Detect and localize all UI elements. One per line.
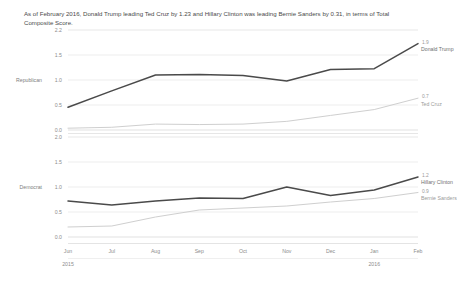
series-name-bernie-sanders: Bernie Sanders [421,195,457,201]
series-lines-republican [68,30,418,130]
chart-title: As of February 2016, Donald Trump leadin… [24,9,414,27]
x-tick-dec: Dec [326,248,335,254]
series-label-donald-trump: 1.9 Donald Trump [421,40,454,53]
series-line-bernie-sanders [68,193,418,228]
series-label-hillary-clinton: 1.2 Hillary Clinton [421,173,453,186]
x-tick-oct: Oct [239,248,247,254]
y-tick-label: 2.2 [55,27,62,33]
y-tick-label: 0.0 [55,127,62,133]
x-axis-rule [68,243,418,244]
x-year-2015: 2015 [62,261,74,267]
x-tick-jan: Jan [370,248,378,254]
y-tick-label: 0.0 [55,234,62,240]
series-name-hillary-clinton: Hillary Clinton [421,179,453,185]
y-tick-label: 0.5 [55,102,62,108]
panel-republican: 2.2 1.5 1.0 0.5 0.0 Republican [0,30,437,132]
panel-democrat: 2.0 1.5 1.0 0.5 0.0 Democrat [0,137,437,239]
plot-area-republican: 2.2 1.5 1.0 0.5 0.0 Republican [68,30,418,130]
y-tick-label: 1.5 [55,159,62,165]
plot-area-democrat: 2.0 1.5 1.0 0.5 0.0 Democrat [68,137,418,237]
x-tick-sep: Sep [195,248,204,254]
x-tick-feb: Feb [414,248,423,254]
y-tick-label: 0.5 [55,209,62,215]
x-axis: Jun Jul Aug Sep Oct Nov Dec Jan Feb 2015… [68,243,418,273]
x-tick-jul: Jul [108,248,115,254]
axis-label-republican: Republican [16,77,42,83]
series-lines-democrat [68,137,418,237]
axis-label-democrat: Democrat [20,184,43,190]
y-tick-label: 1.0 [55,184,62,190]
x-tick-nov: Nov [282,248,291,254]
series-name-ted-cruz: Ted Cruz [421,101,442,107]
series-line-ted-cruz [68,98,418,128]
x-tick-aug: Aug [151,248,160,254]
series-line-donald-trump [68,44,418,108]
series-label-ted-cruz: 0.7 Ted Cruz [421,94,442,107]
y-tick-label: 1.0 [55,77,62,83]
series-line-hillary-clinton [68,177,418,205]
y-tick-label: 1.5 [55,52,62,58]
panel-divider [68,133,418,134]
series-name-donald-trump: Donald Trump [421,46,454,52]
x-year-2016: 2016 [368,261,380,267]
x-axis-band [68,258,418,259]
y-tick-label: 2.0 [55,134,62,140]
series-label-bernie-sanders: 0.9 Bernie Sanders [421,189,457,202]
x-tick-jun: Jun [64,248,72,254]
